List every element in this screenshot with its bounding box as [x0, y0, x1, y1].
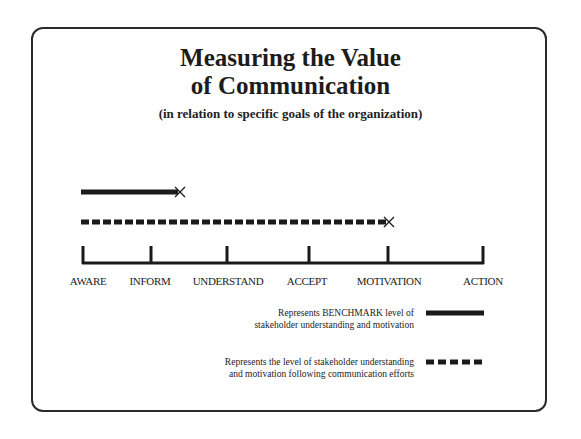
legend-after-line-2: and motivation following communication e… — [225, 368, 414, 380]
legend-after-line-1: Represents the level of stakeholder unde… — [225, 356, 414, 368]
stage-label-inform: INFORM — [130, 275, 171, 287]
stage-axis — [82, 246, 484, 264]
after-communication-bar — [81, 217, 394, 227]
stage-label-aware: AWARE — [70, 275, 107, 287]
legend-benchmark-line-2: stakeholder understanding and motivation — [254, 319, 414, 331]
legend-benchmark-text: Represents BENCHMARK level of stakeholde… — [254, 307, 414, 331]
stage-label-action: ACTION — [463, 275, 503, 287]
legend-after-text: Represents the level of stakeholder unde… — [225, 356, 414, 380]
benchmark-bar — [81, 187, 185, 197]
stage-label-accept: ACCEPT — [287, 275, 327, 287]
legend-benchmark-line-1: Represents BENCHMARK level of — [254, 307, 414, 319]
stage-label-motivation: MOTIVATION — [357, 275, 422, 287]
stage-label-understand: UNDERSTAND — [193, 275, 264, 287]
